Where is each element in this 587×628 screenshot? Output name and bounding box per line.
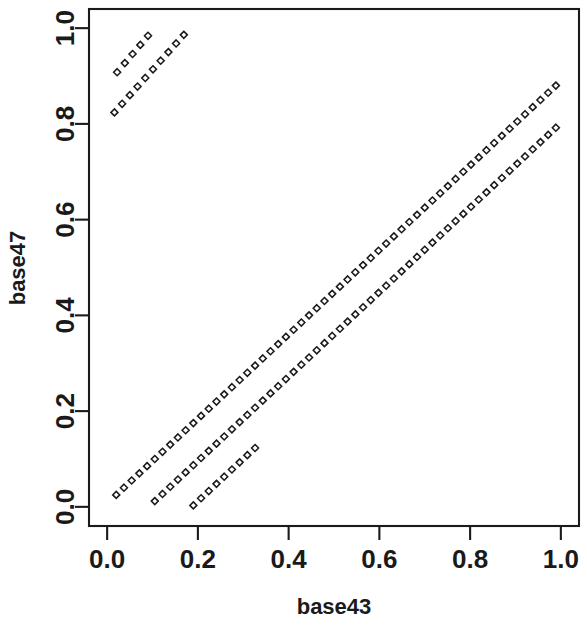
scatter-plot-figure: 0.00.20.40.60.81.00.00.20.40.60.81.0 bas… — [0, 0, 587, 628]
y-tick-label: 0.4 — [50, 297, 80, 334]
x-tick-label: 0.2 — [180, 544, 216, 574]
y-tick-label: 0.0 — [50, 489, 80, 525]
y-tick-label: 1.0 — [50, 10, 80, 46]
x-tick-label: 0.6 — [361, 544, 397, 574]
x-axis-title: base43 — [297, 594, 372, 619]
y-tick-label: 0.8 — [50, 106, 80, 142]
x-tick-label: 0.4 — [271, 544, 308, 574]
y-tick-label: 0.2 — [50, 393, 80, 429]
x-tick-label: 1.0 — [543, 544, 579, 574]
y-axis-title: base47 — [5, 231, 30, 306]
x-tick-label: 0.0 — [89, 544, 125, 574]
x-tick-label: 0.8 — [452, 544, 488, 574]
plot-svg: 0.00.20.40.60.81.00.00.20.40.60.81.0 bas… — [0, 0, 587, 628]
y-tick-label: 0.6 — [50, 202, 80, 238]
